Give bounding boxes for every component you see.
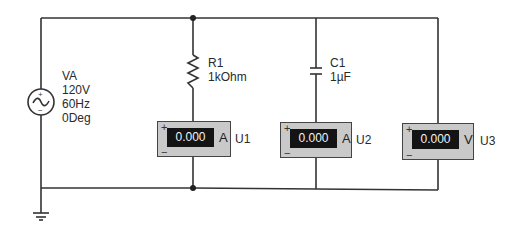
source-name-label: VA — [62, 69, 77, 83]
voltmeter-u3[interactable]: + − 0.000 V — [402, 123, 474, 160]
sine-wave-icon — [33, 98, 49, 105]
resistor-value-label: 1kOhm — [208, 70, 247, 84]
bottom-wire-right — [316, 189, 438, 190]
source-plus-sign: + — [38, 90, 43, 99]
meter-u3-label: U3 — [480, 134, 495, 148]
bottom-wire-mid — [193, 188, 316, 189]
ammeter-u2[interactable]: + − 0.000 A — [280, 122, 352, 158]
meter-minus-terminal: − — [406, 149, 412, 161]
source-frequency-label: 60Hz — [62, 97, 90, 111]
meter-unit: V — [464, 132, 473, 147]
capacitor-name-label: C1 — [330, 56, 345, 70]
meter-unit: A — [219, 130, 228, 145]
resistor-r1-icon — [188, 55, 198, 88]
resistor-name-label: R1 — [208, 56, 223, 70]
source-minus-sign: − — [38, 106, 43, 115]
meter-display: 0.000 — [290, 129, 337, 148]
meter-minus-terminal: − — [284, 147, 290, 159]
meter-u2-label: U2 — [356, 133, 371, 147]
meter-display: 0.000 — [167, 128, 214, 147]
source-voltage-label: 120V — [62, 83, 90, 97]
junction-bottom — [190, 185, 196, 191]
meter-display: 0.000 — [412, 130, 459, 149]
meter-u1-label: U1 — [235, 132, 250, 146]
source-phase-label: 0Deg — [62, 111, 91, 125]
capacitor-value-label: 1µF — [330, 70, 351, 84]
meter-minus-terminal: − — [161, 146, 167, 158]
ammeter-u1[interactable]: + − 0.000 A — [157, 121, 231, 157]
junction-top — [190, 15, 196, 21]
meter-unit: A — [342, 131, 351, 146]
